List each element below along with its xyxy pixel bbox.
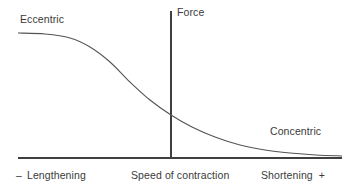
minus-sign: – [16,169,22,181]
shortening-axis-label: Shortening+ [261,169,325,181]
plot-canvas [0,0,352,191]
x-axis-title: Speed of contraction [131,169,229,181]
force-velocity-figure: Eccentric Force Concentric –Lengthening … [0,0,352,191]
plus-sign: + [319,169,325,181]
lengthening-axis-label: –Lengthening [16,169,86,181]
force-axis-label: Force [177,6,204,18]
shortening-text: Shortening [261,169,313,181]
force-velocity-curve [18,33,342,156]
lengthening-text: Lengthening [27,169,86,181]
concentric-label: Concentric [270,125,321,137]
eccentric-label: Eccentric [20,13,64,25]
